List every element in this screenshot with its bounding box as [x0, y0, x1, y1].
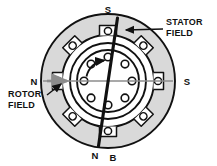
- stator-field-label-line2: FIELD: [166, 28, 193, 38]
- flux-axis-label: B: [110, 152, 117, 163]
- stator-field-label-line1: STATOR: [166, 17, 203, 27]
- rotor-field-label-line1: ROTOR: [8, 89, 42, 99]
- pole-label-bottom: N: [92, 150, 99, 161]
- rotor-bar: [121, 94, 129, 102]
- rotor-bar: [87, 94, 95, 102]
- pole-label-right: S: [184, 76, 190, 87]
- pole-label-left: N: [31, 76, 38, 87]
- motor-cross-section-diagram: S S N N B STATOR FIELD ROTOR FIELD: [0, 0, 217, 166]
- diagram-canvas: S S N N B STATOR FIELD ROTOR FIELD: [0, 0, 217, 166]
- pole-label-top: S: [105, 4, 111, 15]
- rotor-bar: [121, 60, 129, 68]
- rotor-field-label-line2: FIELD: [8, 100, 35, 110]
- stator-field-leader: [126, 29, 163, 30]
